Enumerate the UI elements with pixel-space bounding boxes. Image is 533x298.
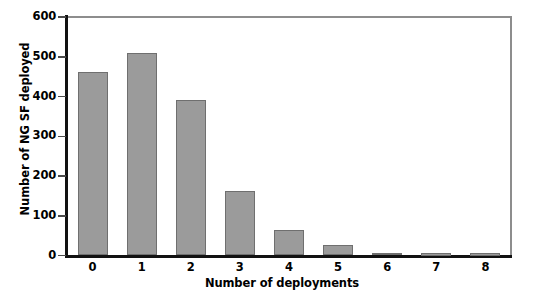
- y-tick-mark: [58, 96, 66, 98]
- y-tick-mark: [58, 56, 66, 58]
- x-axis-title: Number of deployments: [52, 276, 512, 290]
- x-tick-label: 4: [269, 260, 309, 274]
- bar: [176, 100, 206, 256]
- x-tick-label: 5: [318, 260, 358, 274]
- plot-frame-top: [68, 16, 512, 18]
- y-tick-mark: [58, 255, 66, 257]
- bar: [274, 230, 304, 256]
- bar: [323, 245, 353, 255]
- y-tick-mark: [58, 16, 66, 18]
- y-tick-mark: [58, 136, 66, 138]
- x-tick-label: 2: [171, 260, 211, 274]
- y-tick-mark: [58, 215, 66, 217]
- y-axis-title: Number of NG SF deployed: [14, 0, 36, 258]
- y-tick-mark: [58, 175, 66, 177]
- x-tick-label: 1: [122, 260, 162, 274]
- x-tick-label: 7: [416, 260, 456, 274]
- bar: [78, 72, 108, 256]
- plot-frame-right: [510, 16, 512, 257]
- bar: [470, 253, 500, 256]
- bar: [127, 53, 157, 256]
- x-tick-label: 8: [465, 260, 505, 274]
- bar-chart-figure: 0100200300400500600 012345678 Number of …: [0, 0, 533, 298]
- bar: [372, 253, 402, 256]
- bar: [421, 253, 451, 256]
- x-tick-label: 0: [73, 260, 113, 274]
- bar: [225, 191, 255, 255]
- x-tick-label: 6: [367, 260, 407, 274]
- x-tick-label: 3: [220, 260, 260, 274]
